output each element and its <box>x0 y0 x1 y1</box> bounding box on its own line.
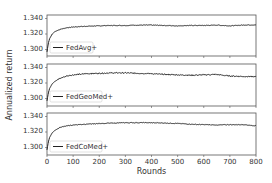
ytick-label: 1.320 <box>23 127 43 135</box>
panel-fedavg: 1.340 1.320 1.300 FedAvg+ <box>23 14 256 58</box>
xtick-label: 500 <box>171 158 184 166</box>
xtick-label: 400 <box>145 158 158 166</box>
y-axis-label: Annualized return <box>5 49 14 120</box>
legend: FedCoMed+ <box>50 141 108 152</box>
legend-label: FedCoMed+ <box>66 143 108 151</box>
ytick-label: 1.300 <box>23 45 43 53</box>
legend: FedAvg+ <box>50 42 97 53</box>
legend: FedGeoMed+ <box>50 91 113 102</box>
x-axis-label: Rounds <box>137 167 166 176</box>
xtick-label: 100 <box>66 158 79 166</box>
xtick-label: 600 <box>197 158 210 166</box>
ytick-label: 1.340 <box>23 14 43 22</box>
ytick-label: 1.300 <box>23 143 43 151</box>
ytick-label: 1.300 <box>23 94 43 102</box>
figure: Annualized return 1.340 1.320 1.300 FedA… <box>0 0 272 183</box>
ytick-label: 1.320 <box>23 78 43 86</box>
xtick-label: 200 <box>93 158 106 166</box>
xtick-label: 0 <box>45 158 49 166</box>
ytick-label: 1.340 <box>23 112 43 120</box>
panel-fedgeomed: 1.340 1.320 1.300 FedGeoMed+ <box>23 63 256 108</box>
panel-fedcomed: 1.340 1.320 1.300 FedCoMed+ <box>23 112 256 157</box>
legend-label: FedGeoMed+ <box>66 93 113 101</box>
ytick-label: 1.340 <box>23 63 43 71</box>
legend-label: FedAvg+ <box>66 44 97 52</box>
xtick-label: 700 <box>223 158 236 166</box>
xtick-label: 800 <box>249 158 262 166</box>
x-axis: 0 100 200 300 400 500 600 700 800 Rounds <box>45 158 263 176</box>
ytick-label: 1.320 <box>23 29 43 37</box>
xtick-label: 300 <box>119 158 132 166</box>
